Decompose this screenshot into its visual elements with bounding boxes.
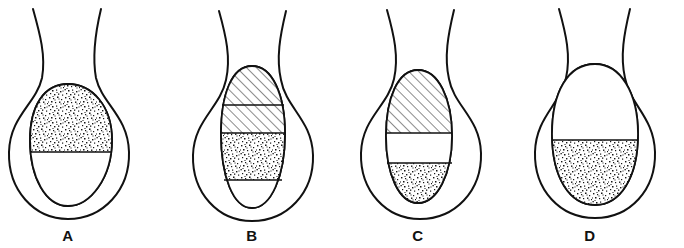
panel-b-label: B bbox=[246, 227, 257, 244]
panel-c-label: C bbox=[412, 227, 423, 244]
figure-container: A B bbox=[0, 0, 684, 248]
figure-canvas: A B bbox=[0, 0, 684, 248]
panel-a-label: A bbox=[62, 227, 73, 244]
panel-d-label: D bbox=[584, 227, 595, 244]
